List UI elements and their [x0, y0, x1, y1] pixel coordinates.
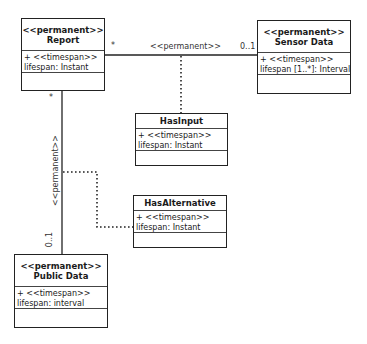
attributes-compartment: + <<timespan>> lifespan: Instant	[22, 51, 104, 73]
attributes-compartment: + <<timespan>> lifespan: interval	[15, 287, 107, 309]
attribute: lifespan: Instant	[24, 63, 104, 73]
association-label: <<permanent>>	[150, 42, 221, 51]
class-public-data[interactable]: <<permanent>> Public Data + <<timespan>>…	[14, 254, 108, 328]
class-hasinput[interactable]: HasInput + <<timespan>> lifespan: Instan…	[135, 113, 228, 166]
stereotype: <<permanent>>	[258, 27, 350, 37]
class-header: <<permanent>> Report	[22, 19, 104, 51]
attribute: lifespan: Instant	[136, 223, 226, 233]
class-report[interactable]: <<permanent>> Report + <<timespan>> life…	[21, 18, 105, 91]
attributes-compartment: + <<timespan>> lifespan [1..*]: Interval	[258, 53, 350, 75]
class-name: Report	[22, 35, 104, 45]
attribute-stereotype: + <<timespan>>	[24, 53, 104, 63]
class-sensor-data[interactable]: <<permanent>> Sensor Data + <<timespan>>…	[257, 20, 351, 94]
attribute: lifespan: Instant	[138, 141, 227, 151]
class-header: <<permanent>> Sensor Data	[258, 21, 350, 53]
attributes-compartment: + <<timespan>> lifespan: Instant	[134, 211, 226, 233]
multiplicity-source: *	[49, 93, 53, 102]
attribute-stereotype: + <<timespan>>	[260, 55, 350, 65]
multiplicity-source: *	[111, 41, 115, 50]
association-class-link-hasalternative	[63, 172, 134, 227]
stereotype: <<permanent>>	[15, 261, 107, 271]
multiplicity-target: 0..1	[240, 42, 255, 51]
attribute: lifespan [1..*]: Interval	[260, 65, 350, 75]
class-header: <<permanent>> Public Data	[15, 255, 107, 287]
multiplicity-target: 0..1	[45, 232, 54, 247]
attribute-stereotype: + <<timespan>>	[138, 131, 227, 141]
attribute: lifespan: interval	[17, 299, 107, 309]
class-name: Public Data	[15, 271, 107, 281]
class-hasalternative[interactable]: HasAlternative + <<timespan>> lifespan: …	[133, 195, 227, 248]
stereotype: <<permanent>>	[22, 25, 104, 35]
attribute-stereotype: + <<timespan>>	[136, 213, 226, 223]
attributes-compartment: + <<timespan>> lifespan: Instant	[136, 129, 227, 151]
class-header: HasInput	[136, 114, 227, 129]
attribute-stereotype: + <<timespan>>	[17, 289, 107, 299]
association-label: <<permanent>>	[51, 135, 60, 206]
class-name: HasAlternative	[134, 198, 226, 208]
class-name: Sensor Data	[258, 37, 350, 47]
class-name: HasInput	[136, 116, 227, 126]
class-header: HasAlternative	[134, 196, 226, 211]
